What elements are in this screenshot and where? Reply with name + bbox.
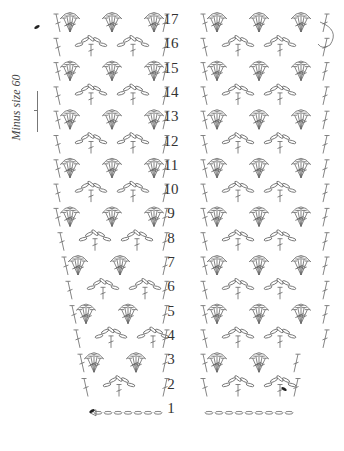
- size-bracket: [37, 91, 38, 132]
- row-label-10: 10: [156, 181, 186, 197]
- row-label-8: 8: [156, 230, 186, 246]
- row-label-12: 12: [156, 133, 186, 149]
- row-label-17: 17: [156, 11, 186, 27]
- crochet-chart: 1716151413121110987654321 Minus size 60: [0, 0, 344, 451]
- row-label-2: 2: [156, 376, 186, 392]
- row-label-1: 1: [156, 400, 186, 416]
- row-label-9: 9: [156, 205, 186, 221]
- row-label-6: 6: [156, 278, 186, 294]
- size-note: Minus size 60: [9, 68, 24, 148]
- row-label-16: 16: [156, 35, 186, 51]
- row-label-11: 11: [156, 157, 186, 173]
- row-label-3: 3: [156, 351, 186, 367]
- row-label-5: 5: [156, 303, 186, 319]
- row-label-7: 7: [156, 254, 186, 270]
- row-label-14: 14: [156, 84, 186, 100]
- row-label-13: 13: [156, 108, 186, 124]
- size-bracket-tick: [34, 110, 38, 111]
- row-label-15: 15: [156, 60, 186, 76]
- row-label-4: 4: [156, 327, 186, 343]
